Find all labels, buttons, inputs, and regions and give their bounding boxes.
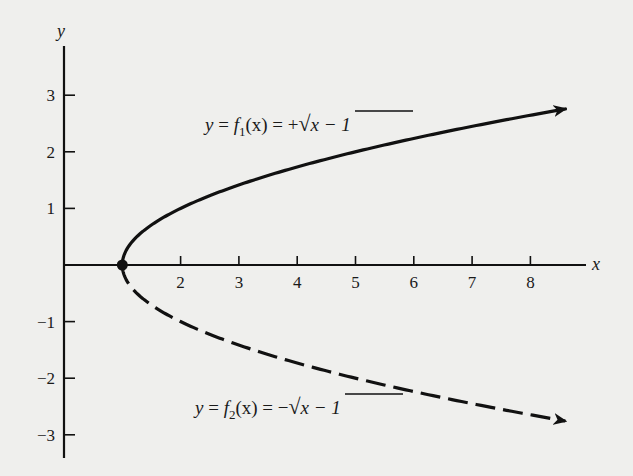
y-tick-label: −2 — [37, 369, 55, 388]
vertex-point-marker — [117, 260, 128, 271]
y-axis-label: y — [55, 21, 65, 41]
x-tick-label: 8 — [526, 273, 535, 292]
y-tick-label: −3 — [37, 426, 55, 445]
lower-equation-label: y = f2(x) = −√x − 1 — [193, 394, 403, 422]
x-tick-label: 7 — [468, 273, 477, 292]
x-tick-label: 2 — [176, 273, 185, 292]
svg-text:y = f2(x) = −√x − 1: y = f2(x) = −√x − 1 — [193, 394, 341, 422]
lower-branch-dashed-curve — [122, 265, 565, 421]
y-tick-label: −1 — [37, 313, 55, 332]
plot-canvas: 2345678 321−1−2−3 x y y = f1(x) = +√x − … — [0, 0, 633, 476]
y-tick-label: 3 — [47, 86, 56, 105]
y-tick-label: 1 — [47, 199, 56, 218]
x-ticks: 2345678 — [176, 256, 534, 292]
sqrt-sign: √ — [299, 111, 312, 136]
x-axis-label: x — [591, 254, 600, 274]
x-tick-label: 6 — [410, 273, 419, 292]
x-tick-label: 4 — [293, 273, 302, 292]
svg-text:y = f1(x) = +√x − 1: y = f1(x) = +√x − 1 — [203, 111, 351, 139]
sqrt-sign: √ — [289, 394, 302, 419]
x-tick-label: 5 — [351, 273, 360, 292]
sqrt-parabola-figure: 2345678 321−1−2−3 x y y = f1(x) = +√x − … — [0, 0, 633, 476]
y-tick-label: 2 — [47, 143, 56, 162]
upper-equation-label: y = f1(x) = +√x − 1 — [203, 111, 413, 139]
x-tick-label: 3 — [235, 273, 244, 292]
